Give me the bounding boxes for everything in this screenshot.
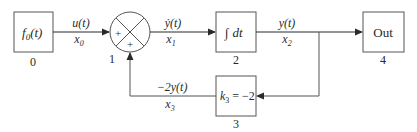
block-3-label: k3 = −2 bbox=[220, 89, 255, 105]
block-2-label: ∫dt bbox=[224, 25, 243, 41]
block-3-gain: k3 = −2 3 bbox=[216, 76, 256, 131]
signal-y-label: y(t) bbox=[278, 16, 296, 30]
plus-sign-left: + bbox=[115, 27, 121, 39]
signal-ydot-label: ẏ(t) bbox=[164, 16, 182, 30]
block-4-number: 4 bbox=[380, 53, 386, 67]
signal-x2-label: x2 bbox=[281, 32, 291, 48]
plus-sign-bottom: + bbox=[127, 38, 133, 50]
signal-x3-label: x3 bbox=[164, 97, 174, 113]
block-4-output: Out 4 bbox=[363, 12, 404, 67]
block-4-label: Out bbox=[373, 25, 393, 40]
block-2-number: 2 bbox=[233, 53, 239, 67]
block-3-number: 3 bbox=[233, 117, 239, 131]
block-0-label: f0(t) bbox=[22, 25, 42, 42]
signal-u-label: u(t) bbox=[72, 16, 89, 30]
signal-x1-label: x1 bbox=[165, 32, 175, 48]
signal-neg2y-label: −2y(t) bbox=[157, 80, 188, 94]
signal-x0-label: x0 bbox=[73, 32, 83, 48]
block-2-integrator: ∫dt 2 bbox=[216, 12, 256, 67]
block-diagram: f0(t) 0 u(t) x0 + + 1 ẏ(t) x1 ∫dt 2 y(t)… bbox=[0, 0, 417, 132]
sum-number: 1 bbox=[109, 52, 115, 66]
block-0-source: f0(t) 0 bbox=[14, 12, 53, 69]
block-0-number: 0 bbox=[30, 55, 36, 69]
